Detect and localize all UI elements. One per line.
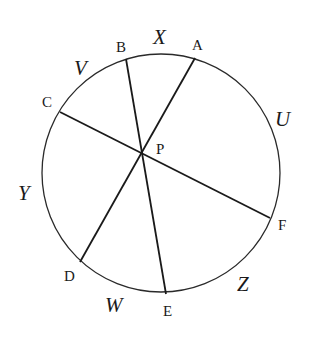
arc-label-v: V [74,56,89,80]
arc-label-x: X [152,25,167,49]
arc-label-u: U [275,107,292,131]
point-label-d: D [64,268,75,284]
point-label-b: B [116,39,126,55]
arc-label-z: Z [237,272,249,296]
point-label-p: P [156,141,164,157]
chord-ad [80,58,195,262]
circle-chords-diagram: A B C D E F P X V U Y W Z [0,0,316,338]
point-label-e: E [163,303,172,319]
circle [42,54,280,292]
arc-label-w: W [105,293,125,317]
point-label-a: A [192,37,203,53]
chord-cf [60,112,270,218]
point-label-f: F [278,217,286,233]
arc-label-y: Y [18,181,32,205]
chord-be [126,59,166,294]
point-label-c: C [42,94,52,110]
